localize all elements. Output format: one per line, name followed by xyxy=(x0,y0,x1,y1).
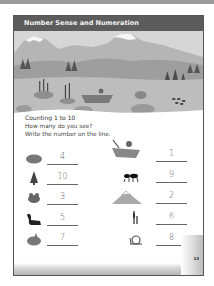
header-band: Number Sense and Numeration xyxy=(14,16,203,31)
tree-icon xyxy=(25,171,43,185)
count-item-squirrel: 5 xyxy=(25,212,105,226)
instruction-line-1: How many do you see? xyxy=(25,123,92,129)
plant-pot-icon xyxy=(25,232,43,246)
answer-line xyxy=(156,224,187,225)
instruction-line-2: Write the number on the line. xyxy=(25,131,111,137)
worksheet-page: Number Sense and Numeration xyxy=(13,15,204,276)
page-curl-corner xyxy=(181,235,203,275)
top-strip xyxy=(0,0,214,4)
answer-value: 4 xyxy=(47,152,78,161)
squirrel-icon xyxy=(25,212,43,226)
lake-scene-illustration xyxy=(14,31,203,116)
answer-value: 7 xyxy=(47,233,78,242)
page-title: Number Sense and Numeration xyxy=(24,19,139,27)
answer-line xyxy=(156,182,187,183)
answer-line xyxy=(47,164,78,165)
count-item-frog: 3 xyxy=(25,191,105,205)
count-item-cattail: 6 xyxy=(114,211,204,225)
frog-icon xyxy=(25,191,43,205)
rock-icon xyxy=(25,151,43,165)
answer-value: 2 xyxy=(156,191,187,200)
answer-value: 10 xyxy=(47,172,78,181)
boat-icon xyxy=(111,136,141,160)
answer-line xyxy=(47,184,78,185)
cattail-icon xyxy=(130,211,148,225)
count-item-boat: 1 xyxy=(114,148,204,162)
count-item-mountain: 2 xyxy=(114,190,204,204)
answer-value: 6 xyxy=(156,212,187,221)
answer-value: 1 xyxy=(156,149,187,158)
answer-value: 5 xyxy=(47,213,78,222)
answer-value: 9 xyxy=(156,170,187,179)
count-item-tree: 10 xyxy=(25,171,105,185)
mountain-icon xyxy=(112,190,142,204)
answer-line xyxy=(47,225,78,226)
answer-value: 3 xyxy=(47,192,78,201)
count-item-ant: 9 xyxy=(114,169,204,183)
answer-line xyxy=(156,161,187,162)
ant-icon xyxy=(122,169,140,183)
section-subtitle: Counting 1 to 10 xyxy=(25,114,75,121)
answer-line xyxy=(156,203,187,204)
page-footer-band xyxy=(14,263,203,275)
answer-line xyxy=(47,245,78,246)
page-number: 13 xyxy=(193,256,199,261)
count-item-plant: 7 xyxy=(25,232,105,246)
answer-line xyxy=(47,204,78,205)
snail-icon xyxy=(128,232,146,246)
count-item-rock: 4 xyxy=(25,151,105,165)
